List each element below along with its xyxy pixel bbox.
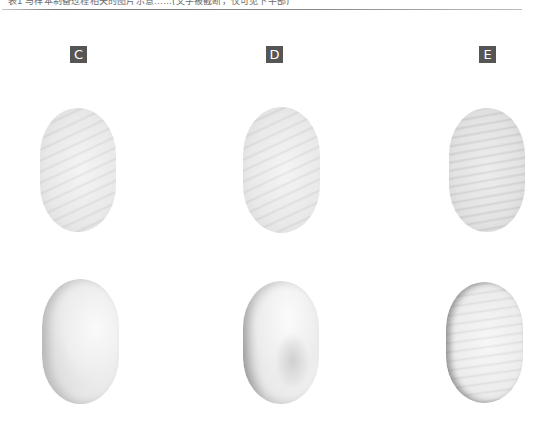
header-divider: [2, 9, 522, 10]
image-e-top: [449, 108, 525, 232]
panel-label-c: C: [70, 46, 87, 63]
image-d-top: [243, 107, 320, 233]
image-d-bottom: [243, 281, 319, 404]
panel-label-e: E: [479, 46, 496, 63]
figure-caption: 表1 与样本制备过程相关的图片示意……(文字被截断，仅可见下半部): [0, 0, 553, 5]
image-c-top: [40, 108, 116, 232]
image-c-bottom: [42, 279, 119, 404]
image-e-bottom: [446, 282, 523, 403]
panel-label-d: D: [266, 46, 283, 63]
